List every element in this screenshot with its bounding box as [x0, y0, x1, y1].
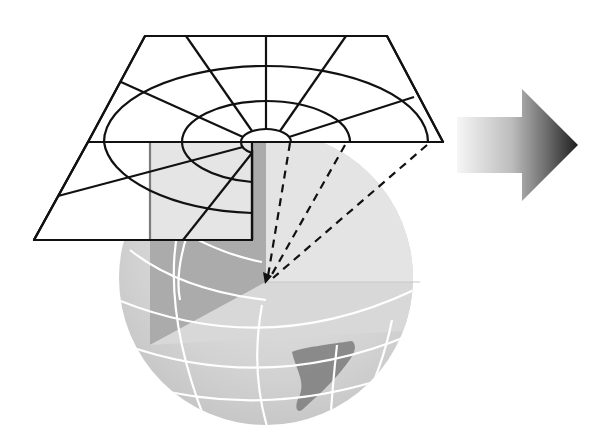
azimuthal-projection-diagram [0, 0, 608, 446]
right-arrow-icon [457, 89, 578, 201]
